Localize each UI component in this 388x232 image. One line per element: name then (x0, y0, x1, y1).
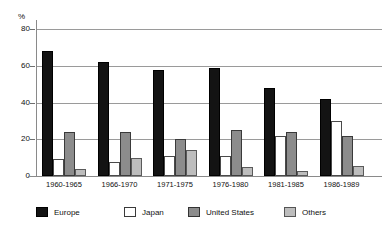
bar-group (264, 20, 308, 176)
chart-legend: EuropeJapanUnited StatesOthers (36, 205, 366, 221)
bar-europe (98, 62, 109, 176)
legend-swatch-europe-icon (36, 207, 48, 217)
y-tick-label-40: 40 (21, 99, 30, 107)
legend-item-europe[interactable]: Europe (36, 205, 80, 219)
legend-item-others[interactable]: Others (284, 205, 326, 219)
legend-label: Europe (54, 208, 80, 217)
bar-europe (264, 88, 275, 176)
bar-others (186, 150, 197, 176)
bar-others (297, 171, 308, 177)
bar-group (42, 20, 86, 176)
x-tick-label: 1971-1975 (143, 180, 207, 189)
bar-europe (320, 99, 331, 176)
bar-us (231, 130, 242, 176)
y-tick-label-20: 20 (21, 135, 30, 143)
bar-us (64, 132, 75, 176)
bar-groups (36, 20, 382, 176)
bar-us (120, 132, 131, 176)
legend-swatch-japan-icon (124, 207, 136, 217)
bar-chart: % 020406080 1960-19651966-19701971-19751… (0, 0, 388, 232)
y-tick-60 (30, 66, 35, 67)
bar-japan (53, 159, 64, 176)
bar-us (342, 136, 353, 176)
x-tick-label: 1976-1980 (199, 180, 263, 189)
bar-group (209, 20, 253, 176)
bar-us (286, 132, 297, 176)
x-tick-label: 1986-1989 (310, 180, 374, 189)
y-tick-label-60: 60 (21, 62, 30, 70)
bar-japan (220, 156, 231, 176)
legend-label: Japan (142, 208, 164, 217)
y-tick-40 (30, 103, 35, 104)
legend-item-us[interactable]: United States (188, 205, 254, 219)
bar-others (242, 167, 253, 176)
y-tick-80 (30, 29, 35, 30)
bar-us (175, 139, 186, 176)
legend-swatch-others-icon (284, 207, 296, 217)
legend-swatch-us-icon (188, 207, 200, 217)
bar-others (131, 158, 142, 176)
legend-label: United States (206, 208, 254, 217)
bar-japan (109, 162, 120, 176)
legend-item-japan[interactable]: Japan (124, 205, 164, 219)
y-tick-label-80: 80 (21, 25, 30, 33)
bar-europe (209, 68, 220, 176)
bar-others (75, 169, 86, 176)
bar-japan (331, 121, 342, 176)
x-axis-tick-labels: 1960-19651966-19701971-19751976-19801981… (36, 180, 382, 194)
bar-group (98, 20, 142, 176)
bar-europe (42, 51, 53, 176)
bar-europe (153, 70, 164, 176)
y-axis-tick-labels: 020406080 (0, 20, 30, 176)
bar-group (153, 20, 197, 176)
x-axis-line (28, 176, 382, 177)
bar-group (320, 20, 364, 176)
x-tick-label: 1981-1985 (254, 180, 318, 189)
x-tick-label: 1960-1965 (32, 180, 96, 189)
y-tick-20 (30, 139, 35, 140)
bar-others (353, 166, 364, 176)
bar-japan (275, 136, 286, 176)
x-tick-label: 1966-1970 (88, 180, 152, 189)
bar-japan (164, 156, 175, 176)
legend-label: Others (302, 208, 326, 217)
